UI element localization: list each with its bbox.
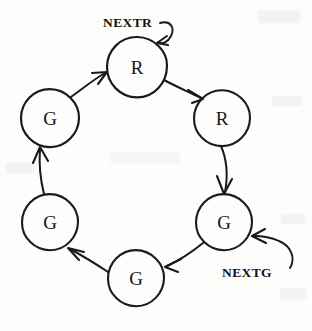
node-label-g-lower-right: G	[217, 212, 231, 233]
node-label-r-top: R	[131, 57, 144, 78]
edge-arrowhead	[217, 176, 232, 194]
node-r-top: R	[107, 37, 167, 97]
edge-line	[71, 73, 105, 97]
edge-r-upper-right-to-g-lower-right	[217, 146, 232, 194]
node-label-g-lower-left: G	[43, 212, 57, 233]
edge-g-lower-left-to-g-upper-left	[33, 147, 48, 194]
edge-g-bottom-to-g-lower-left	[68, 248, 108, 272]
input-arrow-nextg: NEXTG	[222, 229, 293, 280]
state-cycle-diagram: R R G G G G	[0, 0, 312, 331]
node-g-bottom: G	[108, 250, 164, 306]
diagram-page: R R G G G G	[0, 0, 312, 331]
edge-g-lower-right-to-g-bottom	[165, 243, 203, 272]
node-g-lower-left: G	[22, 194, 78, 250]
input-arrow-nextg-label: NEXTG	[222, 265, 272, 280]
edge-line	[40, 149, 44, 194]
node-label-g-upper-left: G	[43, 108, 57, 129]
node-label-r-upper-right: R	[216, 108, 229, 129]
edge-arrowhead	[92, 72, 107, 84]
edge-r-top-to-r-upper-right	[164, 80, 203, 103]
node-g-upper-left: G	[21, 89, 79, 147]
node-group: R R G G G G	[21, 37, 252, 306]
edge-line	[221, 146, 227, 192]
edge-arrowhead	[165, 259, 181, 272]
node-label-g-bottom: G	[129, 268, 143, 289]
edge-line	[70, 249, 108, 272]
cycle-edge-group	[33, 72, 232, 272]
edge-arrowhead	[68, 248, 84, 260]
node-g-lower-right: G	[196, 194, 252, 250]
input-arrow-nextr-label: NEXTR	[103, 15, 152, 30]
edge-g-upper-left-to-r-top	[71, 72, 107, 97]
input-arrow-nextr: NEXTR	[103, 15, 173, 45]
